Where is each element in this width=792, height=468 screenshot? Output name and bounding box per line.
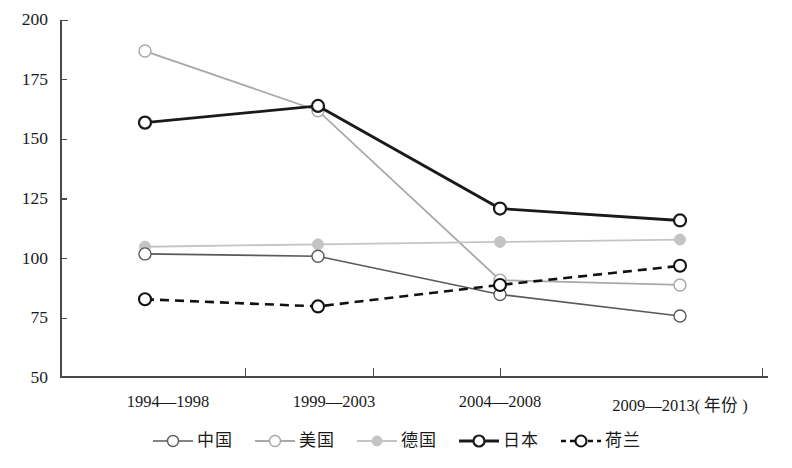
line-chart: 2001751501251007550 1994—19981999—200320…: [0, 0, 792, 468]
legend-item-德国[interactable]: 德国: [356, 432, 436, 449]
data-point: [139, 117, 151, 129]
series-2: [140, 234, 686, 252]
legend-item-荷兰[interactable]: 荷兰: [560, 432, 640, 449]
data-point: [494, 279, 506, 291]
series-line: [145, 106, 680, 221]
data-point: [139, 248, 151, 260]
data-point: [313, 239, 324, 250]
data-point: [494, 203, 506, 215]
legend-label: 荷兰: [605, 432, 640, 449]
legend-item-日本[interactable]: 日本: [458, 432, 538, 449]
data-point: [675, 234, 686, 245]
data-point: [674, 214, 686, 226]
legend-label: 美国: [299, 432, 334, 449]
legend-item-美国[interactable]: 美国: [254, 432, 334, 449]
data-point: [495, 236, 506, 247]
legend-swatch-icon: [356, 433, 398, 449]
data-point: [312, 300, 324, 312]
legend-swatch-icon: [458, 433, 500, 449]
legend-swatch-icon: [560, 433, 602, 449]
data-point: [674, 260, 686, 272]
data-point: [312, 250, 324, 262]
chart-legend: 中国美国德国日本荷兰: [0, 432, 792, 449]
legend-label: 中国: [197, 432, 232, 449]
series-line: [145, 266, 680, 307]
data-point: [674, 279, 686, 291]
legend-item-中国[interactable]: 中国: [152, 432, 232, 449]
series-line: [145, 254, 680, 316]
data-point: [139, 293, 151, 305]
data-point: [674, 310, 686, 322]
legend-label: 日本: [503, 432, 538, 449]
series-0: [139, 248, 686, 322]
legend-swatch-icon: [254, 433, 296, 449]
legend-swatch-icon: [152, 433, 194, 449]
series-4: [139, 260, 686, 313]
series-line: [145, 240, 680, 247]
series-line: [145, 51, 680, 285]
legend-label: 德国: [401, 432, 436, 449]
series-1: [139, 45, 686, 291]
data-point: [312, 100, 324, 112]
series-layer: [0, 0, 792, 468]
series-3: [139, 100, 686, 227]
data-point: [139, 45, 151, 57]
